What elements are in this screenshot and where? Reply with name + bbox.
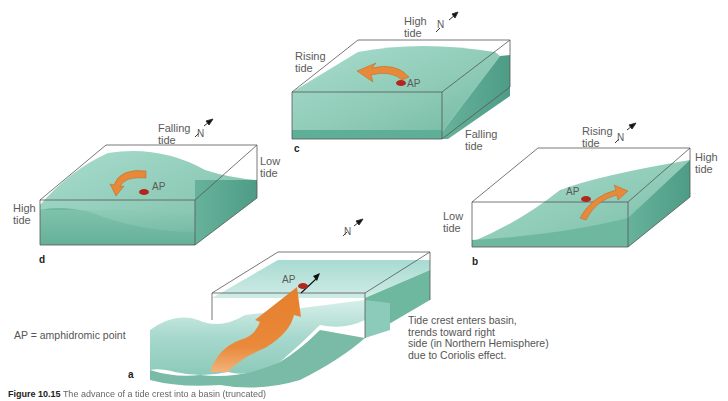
ap-dot (581, 196, 591, 202)
ap-label-d: AP (152, 181, 165, 193)
north-label-c: N (437, 19, 444, 31)
label-b-right: High tide (695, 151, 718, 175)
label-d-right: Low tide (260, 155, 280, 179)
panel-d (40, 119, 257, 245)
panel-letter-a: a (128, 369, 134, 380)
description-note: Tide crest enters basin, trends toward r… (408, 315, 549, 361)
panel-b (472, 123, 690, 247)
caption-label: Figure 10.15 (8, 389, 61, 399)
panel-c (292, 12, 510, 139)
label-c-top: High tide (404, 15, 427, 39)
caption-text: The advance of a tide crest into a basin… (63, 389, 266, 399)
north-label-b: N (617, 132, 624, 144)
label-c-right: Falling tide (465, 128, 497, 152)
ap-dot (298, 283, 308, 289)
label-d-top: Falling tide (158, 122, 190, 146)
ap-dot (139, 189, 149, 195)
legend-note: AP = amphidromic point (14, 330, 126, 342)
ap-label-a: AP (282, 274, 295, 286)
label-b-left: Low tide (443, 210, 463, 234)
panel-letter-c: c (294, 143, 300, 154)
ap-label-b: AP (566, 186, 579, 198)
label-c-left: Rising tide (295, 50, 326, 74)
ap-label-c: AP (407, 78, 420, 90)
label-b-top: Rising tide (582, 125, 613, 149)
north-label-a: N (344, 226, 351, 238)
ap-dot (396, 80, 406, 86)
panel-letter-b: b (472, 256, 478, 267)
label-d-left: High tide (13, 202, 36, 226)
figure-caption: Figure 10.15 The advance of a tide crest… (8, 389, 266, 399)
north-label-d: N (197, 128, 204, 140)
panel-letter-d: d (39, 254, 45, 265)
